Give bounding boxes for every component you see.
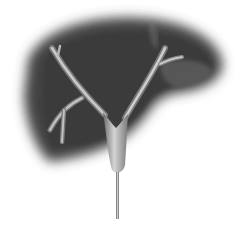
common-bile-duct (103, 112, 128, 219)
liver-illustration (0, 0, 236, 226)
